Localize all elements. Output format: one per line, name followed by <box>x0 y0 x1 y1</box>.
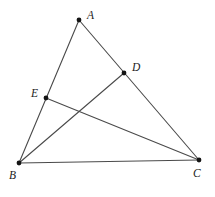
segment-cevian-CE <box>46 98 199 160</box>
segment-side-AC <box>79 20 199 160</box>
vertex-label-C: C <box>193 167 201 179</box>
vertex-dot-D <box>122 71 127 76</box>
triangle-cevian-diagram: ABCDE <box>0 0 215 197</box>
vertex-label-A: A <box>86 9 95 21</box>
vertex-label-E: E <box>30 87 38 99</box>
segment-side-AB <box>19 20 79 163</box>
vertex-label-B: B <box>9 169 16 181</box>
vertex-dot-B <box>17 161 22 166</box>
segment-side-BC <box>19 160 199 163</box>
vertex-label-D: D <box>131 61 141 73</box>
vertex-dot-E <box>44 96 49 101</box>
vertex-dot-C <box>197 158 202 163</box>
vertex-dot-A <box>77 18 82 23</box>
